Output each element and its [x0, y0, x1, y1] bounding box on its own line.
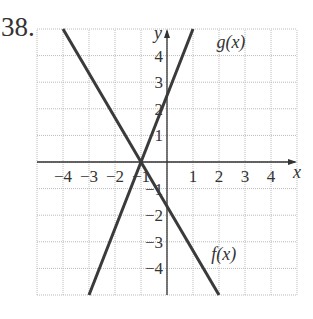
y-tick-label: 4: [155, 47, 164, 66]
chart: −4−3−2−112344321−1−2−3−4xyf(x)g(x): [0, 0, 313, 319]
y-tick-label: −3: [145, 233, 163, 252]
y-tick-label: 3: [155, 73, 164, 92]
x-tick-label: −2: [106, 167, 124, 186]
x-tick-label: 1: [189, 167, 198, 186]
x-tick-label: −3: [80, 167, 98, 186]
x-tick-label: 2: [215, 167, 224, 186]
x-tick-label: 3: [241, 167, 250, 186]
y-axis-arrow-icon: [164, 29, 170, 38]
x-axis-label: x: [292, 162, 301, 182]
x-tick-label: −4: [54, 167, 73, 186]
series-label-gx: g(x): [216, 32, 245, 53]
y-tick-label: 1: [155, 126, 164, 145]
y-tick-label: −4: [145, 259, 164, 278]
series-label-fx: f(x): [211, 244, 236, 265]
y-tick-label: −2: [145, 206, 163, 225]
x-tick-label: 4: [267, 167, 276, 186]
y-axis-label: y: [152, 23, 162, 43]
